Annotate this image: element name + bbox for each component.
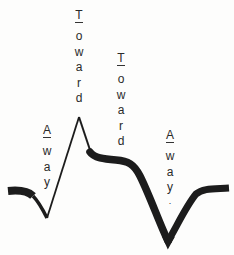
label-char: w <box>43 144 52 160</box>
label-char: a <box>44 160 51 176</box>
label-char: A <box>166 129 174 143</box>
label-away-1: A w a y <box>40 124 54 191</box>
label-toward-1: T o w a r d <box>72 9 86 107</box>
label-char: o <box>118 72 125 88</box>
label-char: w <box>117 88 126 104</box>
label-char: w <box>166 149 175 165</box>
label-away-2: A w a y . <box>163 129 177 206</box>
label-char: T <box>75 9 82 23</box>
label-char: A <box>43 124 51 138</box>
left-trough-descent <box>33 196 47 218</box>
label-char: a <box>167 165 174 181</box>
label-char: d <box>118 134 125 150</box>
label-char: a <box>118 103 125 119</box>
label-char: o <box>76 29 83 45</box>
label-char: w <box>75 45 84 61</box>
left-baseline <box>8 191 33 196</box>
label-char: d <box>76 91 83 107</box>
plateau-and-descent <box>90 152 168 241</box>
label-toward-2: T o w a r d <box>114 52 128 150</box>
label-char: y <box>44 175 50 191</box>
label-char: a <box>76 60 83 76</box>
label-mark: . <box>169 196 172 206</box>
label-char: y <box>167 180 173 196</box>
downstroke <box>79 117 90 150</box>
label-char: T <box>117 52 124 66</box>
label-char: r <box>77 76 81 92</box>
label-char: r <box>119 119 123 135</box>
waveform-diagram: T o w a r d T o w a r d A w a y A w a y … <box>0 0 234 255</box>
right-recovery <box>168 188 229 241</box>
